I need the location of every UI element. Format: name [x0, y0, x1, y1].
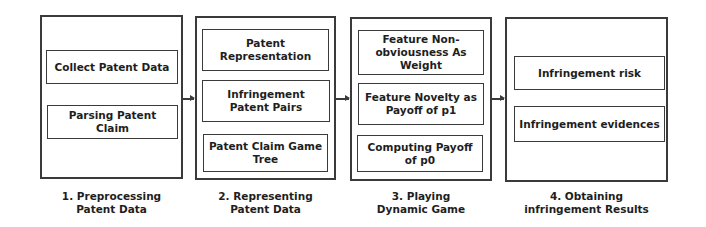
caption-line: 3. Playing: [350, 190, 492, 203]
collect-patent-data-box: Collect Patent Data: [46, 50, 178, 84]
caption-line: Dynamic Game: [350, 203, 492, 216]
caption-line: infringement Results: [505, 203, 668, 216]
feature-novelty-box: Feature Novelty as Payoff of p1: [358, 83, 484, 125]
stage-3-caption: 3. Playing Dynamic Game: [350, 190, 492, 216]
arrow-right-icon: [336, 98, 349, 100]
caption-line: 2. Representing: [195, 190, 336, 203]
stage-4-caption: 4. Obtaining infringement Results: [505, 190, 668, 216]
caption-line: 1. Preprocessing: [40, 190, 183, 203]
arrow-right-icon: [183, 98, 194, 100]
infringement-risk-box: Infringement risk: [514, 56, 665, 90]
caption-line: Patent Data: [40, 203, 183, 216]
stage-1-caption: 1. Preprocessing Patent Data: [40, 190, 183, 216]
stage-1-panel: [40, 15, 183, 179]
arrow-right-icon: [492, 98, 504, 100]
feature-non-obviousness-box: Feature Non-obviousness As Weight: [358, 30, 484, 75]
infringement-evidences-box: Infringement evidences: [514, 106, 665, 142]
infringement-patent-pairs-box: Infringement Patent Pairs: [202, 80, 330, 122]
computing-payoff-box: Computing Payoff of p0: [357, 135, 483, 172]
stage-2-caption: 2. Representing Patent Data: [195, 190, 336, 216]
caption-line: Patent Data: [195, 203, 336, 216]
patent-representation-box: Patent Representation: [202, 29, 329, 71]
stage-4-panel: [505, 17, 668, 182]
patent-claim-game-tree-box: Patent Claim Game Tree: [203, 134, 328, 172]
parsing-patent-claim-box: Parsing Patent Claim: [47, 105, 178, 139]
caption-line: 4. Obtaining: [505, 190, 668, 203]
